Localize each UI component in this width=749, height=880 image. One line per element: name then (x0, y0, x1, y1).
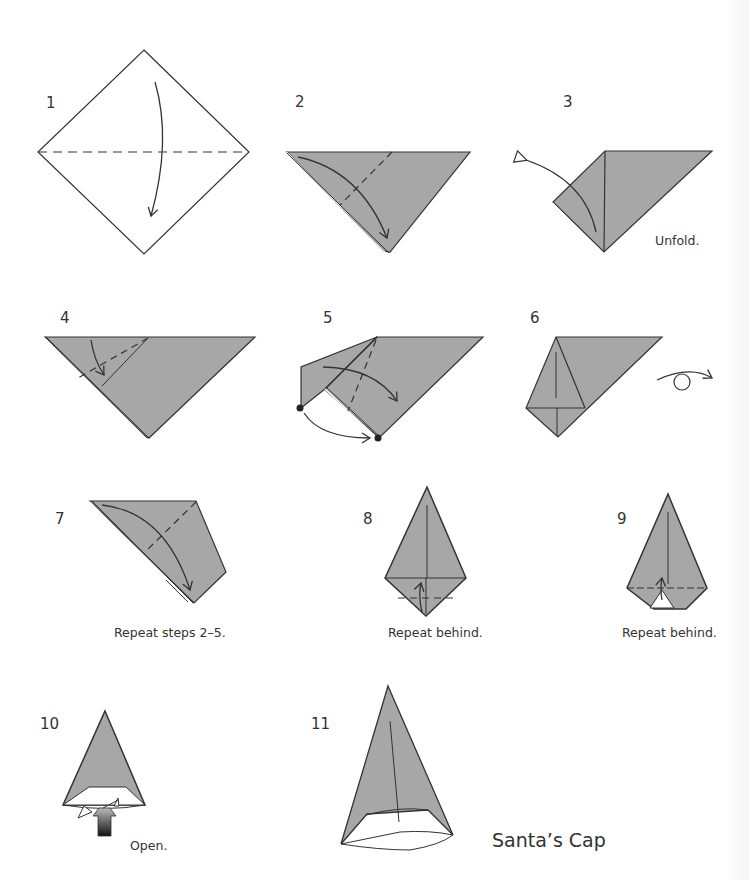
step-1-number: 1 (46, 94, 56, 112)
step-7-diagram (90, 501, 226, 604)
step-5-diagram (297, 337, 484, 442)
step-2-diagram (287, 152, 470, 253)
step-2-number: 2 (295, 93, 305, 111)
step-11-number: 11 (311, 715, 330, 733)
step-9-caption: Repeat behind. (622, 625, 717, 640)
step-5-number: 5 (323, 309, 333, 327)
origami-diagrams (0, 0, 749, 880)
step-6-number: 6 (530, 309, 540, 327)
step-9-number: 9 (617, 510, 627, 528)
step-6-diagram (526, 337, 712, 438)
instruction-page: 1 2 3 4 5 6 7 8 9 10 11 Unfold. Repeat s… (0, 0, 749, 880)
model-title: Santa’s Cap (492, 829, 606, 851)
step-9-diagram (627, 494, 707, 609)
step-4-number: 4 (60, 309, 70, 327)
step-4-diagram (45, 337, 255, 438)
step-10-number: 10 (40, 715, 59, 733)
step-10-caption: Open. (130, 838, 167, 853)
step-11-diagram (341, 686, 453, 850)
step-7-caption: Repeat steps 2–5. (114, 625, 226, 640)
step-7-number: 7 (55, 510, 65, 528)
step-3-number: 3 (563, 93, 573, 111)
step-1-diagram (38, 50, 249, 254)
step-10-diagram (63, 711, 145, 836)
step-3-caption: Unfold. (655, 233, 700, 248)
step-8-caption: Repeat behind. (388, 625, 483, 640)
step-8-diagram (385, 487, 466, 616)
step-8-number: 8 (363, 510, 373, 528)
